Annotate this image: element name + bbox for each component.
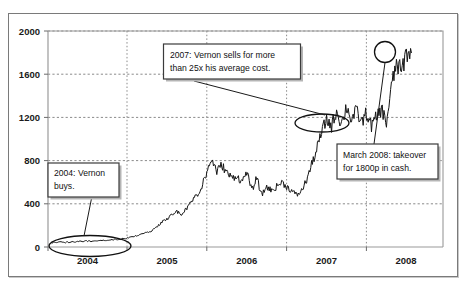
annotation-2004-buys[interactable]: 2004: Vernon buys. <box>48 163 122 200</box>
circle-2008-takeover-price <box>375 42 396 63</box>
x-axis-labels: 2004 2005 2006 2007 2008 <box>77 255 417 266</box>
annotation-2007-sells-line-2: than 25x his average cost. <box>170 63 270 73</box>
chart-screenshot: 2000 1600 1200 800 400 0 2004 2005 2006 … <box>0 0 470 290</box>
ellipse-2004-buy-zone <box>49 236 131 257</box>
x-tick-label-2008: 2008 <box>395 255 416 266</box>
annotation-2008-takeover-line-1: March 2008: takeover <box>343 150 426 160</box>
stock-price-chart: 2000 1600 1200 800 400 0 2004 2005 2006 … <box>0 0 470 290</box>
annotation-2008-takeover-line-2: for 1800p in cash. <box>343 163 411 173</box>
x-tick-label-2007: 2007 <box>316 255 337 266</box>
annotation-2007-sells-line-1: 2007: Vernon sells for more <box>170 50 275 60</box>
y-tick-label-0: 0 <box>35 242 40 253</box>
x-axis-tick-marks <box>48 247 366 251</box>
x-tick-label-2005: 2005 <box>156 255 178 266</box>
leader-line-2007-sells <box>194 81 325 115</box>
leader-line-2008-takeover <box>374 63 385 145</box>
y-tick-label-800: 800 <box>24 155 40 166</box>
annotation-2007-sells[interactable]: 2007: Vernon sells for more than 25x his… <box>164 44 304 82</box>
annotation-2008-takeover[interactable]: March 2008: takeover for 1800p in cash. <box>337 144 441 182</box>
y-tick-label-1600: 1600 <box>19 69 40 80</box>
annotation-2004-buys-line-2: buys. <box>54 181 75 191</box>
y-tick-label-1200: 1200 <box>19 112 40 123</box>
x-tick-label-2006: 2006 <box>236 255 257 266</box>
y-axis-labels: 2000 1600 1200 800 400 0 <box>19 26 40 253</box>
y-tick-label-2000: 2000 <box>19 26 40 37</box>
y-tick-label-400: 400 <box>24 198 40 209</box>
annotation-2004-buys-line-1: 2004: Vernon <box>54 168 105 178</box>
